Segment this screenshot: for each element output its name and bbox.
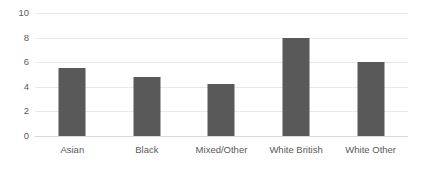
y-tick-label-4: 4 — [12, 82, 29, 92]
y-tick-label-0: 0 — [12, 131, 29, 141]
bar-white-british[interactable] — [283, 38, 310, 136]
y-tick-label-10: 10 — [12, 8, 29, 18]
x-tick-label-white-other: White Other — [333, 143, 408, 163]
bar-slot-asian — [35, 13, 110, 136]
y-tick-label-6: 6 — [12, 57, 29, 67]
y-tick-label-2: 2 — [12, 107, 29, 117]
bar-slot-mixed-other — [184, 13, 259, 136]
plot-area — [35, 13, 408, 136]
bar-black[interactable] — [133, 77, 160, 136]
gridline-0-baseline — [35, 136, 408, 137]
bar-slot-white-british — [259, 13, 334, 136]
bar-chart: 10 8 6 4 2 0 — [0, 0, 421, 172]
bar-asian[interactable] — [59, 68, 86, 136]
bar-mixed-other[interactable] — [208, 84, 235, 136]
x-axis-category-labels: Asian Black Mixed/Other White British Wh… — [35, 143, 408, 163]
bar-slot-white-other — [333, 13, 408, 136]
bar-series — [35, 13, 408, 136]
x-tick-label-black: Black — [110, 143, 185, 163]
bar-white-other[interactable] — [357, 62, 384, 136]
x-tick-label-asian: Asian — [35, 143, 110, 163]
x-tick-label-mixed-other: Mixed/Other — [184, 143, 259, 163]
x-tick-label-white-british: White British — [259, 143, 334, 163]
bar-slot-black — [110, 13, 185, 136]
y-tick-label-8: 8 — [12, 33, 29, 43]
